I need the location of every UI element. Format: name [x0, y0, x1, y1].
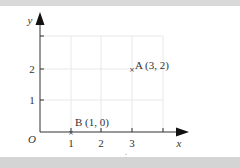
- bottom-band: [0, 157, 240, 168]
- x-tick-3: 3: [129, 137, 135, 149]
- cross-marker-icon: ×: [68, 129, 74, 137]
- point-b-label: B (1, 0): [75, 116, 109, 129]
- y-axis-label: y: [27, 14, 33, 26]
- x-axis: [40, 128, 189, 137]
- y-axis: [36, 12, 45, 132]
- x-tick-2: 2: [98, 137, 104, 149]
- x-axis-label: x: [176, 137, 182, 149]
- origin-label: O: [28, 133, 36, 145]
- coordinate-plane: 1 2 3 1 2 O x y × A (3, 2) × B (1, 0): [0, 0, 240, 168]
- point-b: × B (1, 0): [68, 116, 109, 137]
- y-tick-1: 1: [29, 94, 35, 106]
- x-tick-1: 1: [68, 137, 74, 149]
- point-a-label: A (3, 2): [135, 59, 169, 72]
- y-tick-2: 2: [29, 63, 35, 75]
- y-axis-arrow-icon: [36, 12, 45, 25]
- x-axis-arrow-icon: [176, 128, 189, 137]
